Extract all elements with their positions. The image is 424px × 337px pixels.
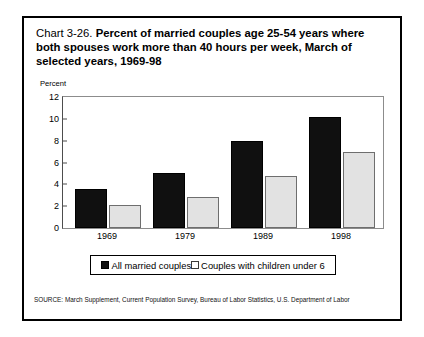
y-axis-tick-label: 8 bbox=[54, 136, 59, 146]
bar-group: 1998 bbox=[305, 97, 375, 228]
bar bbox=[309, 117, 341, 228]
legend-swatch-light-icon bbox=[191, 261, 199, 269]
bar-group: 1969 bbox=[71, 97, 141, 228]
chart-title: Chart 3-26. Percent of married couples a… bbox=[36, 26, 388, 69]
legend-label: All married couples bbox=[111, 260, 191, 271]
x-axis-tick-label: 1998 bbox=[306, 231, 376, 241]
y-axis-tick-label: 6 bbox=[54, 158, 59, 168]
bar bbox=[187, 197, 219, 228]
y-axis-tick-label: 4 bbox=[54, 179, 59, 189]
x-axis-tick-label: 1979 bbox=[150, 231, 220, 241]
bar-series-container: 1969197919891998 bbox=[63, 97, 383, 228]
plot-area: 024681012 1969197919891998 bbox=[62, 96, 384, 229]
source-note: SOURCE: March Supplement, Current Popula… bbox=[34, 296, 350, 303]
legend-entry: Couples with children under 6 bbox=[191, 260, 325, 271]
y-axis-tick-label: 0 bbox=[54, 223, 59, 233]
bar-group: 1989 bbox=[227, 97, 297, 228]
x-axis-tick-label: 1969 bbox=[72, 231, 142, 241]
chart-figure: Chart 3-26. Percent of married couples a… bbox=[22, 16, 402, 321]
bar bbox=[343, 152, 375, 228]
legend-entry: All married couples bbox=[101, 260, 191, 271]
legend-swatch-dark-icon bbox=[101, 261, 109, 269]
y-axis-label: Percent bbox=[40, 79, 66, 88]
bar bbox=[265, 176, 297, 228]
y-axis-tick-label: 2 bbox=[54, 201, 59, 211]
y-axis-tick-label: 12 bbox=[49, 92, 59, 102]
bar bbox=[109, 205, 141, 228]
chart-legend: All married couplesCouples with children… bbox=[90, 255, 336, 275]
legend-label: Couples with children under 6 bbox=[201, 260, 325, 271]
bar bbox=[75, 189, 107, 228]
bar bbox=[153, 173, 185, 228]
y-axis-tick-label: 10 bbox=[49, 114, 59, 124]
x-axis-tick-label: 1989 bbox=[228, 231, 298, 241]
bar bbox=[231, 141, 263, 228]
chart-title-prefix: Chart 3-26. bbox=[36, 27, 96, 39]
bar-group: 1979 bbox=[149, 97, 219, 228]
